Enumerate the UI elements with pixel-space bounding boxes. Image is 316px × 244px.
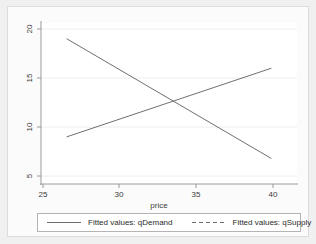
plot-region (41, 23, 297, 184)
y-tick-label-5: 5 (25, 173, 34, 178)
legend: Fitted values: qDemand Fitted values: qS… (37, 213, 301, 232)
legend-label-qdemand: Fitted values: qDemand (88, 218, 173, 227)
plot-svg (41, 23, 297, 184)
data-series (67, 39, 272, 159)
x-tick-label-40: 40 (269, 190, 278, 199)
legend-label-qsupply: Fitted values: qSupply (233, 218, 312, 227)
legend-entry-qsupply[interactable]: Fitted values: qSupply (191, 218, 312, 227)
x-tick-label-35: 35 (192, 190, 201, 199)
solid-line-key-icon (46, 218, 82, 227)
y-tick-label-15: 15 (25, 73, 34, 82)
series-line-qsupply (67, 68, 272, 137)
x-tick-label-30: 30 (115, 190, 124, 199)
x-axis-title: price (8, 201, 310, 210)
series-line-qdemand (67, 39, 272, 159)
x-tick-label-25: 25 (39, 190, 48, 199)
dashed-line-key-icon (191, 218, 227, 227)
y-tick-label-20: 20 (25, 24, 34, 33)
legend-entry-qdemand[interactable]: Fitted values: qDemand (46, 218, 173, 227)
graph-frame: 20 15 10 5 25 30 35 40 price Fitted valu… (7, 6, 309, 237)
y-tick-label-10: 10 (25, 122, 34, 131)
